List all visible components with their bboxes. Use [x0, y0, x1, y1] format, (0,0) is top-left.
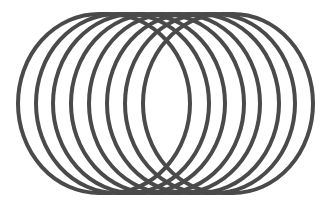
ring-2: [36, 14, 209, 193]
ring-3: [53, 14, 225, 193]
ring-8: [143, 14, 313, 193]
overlapping-rings-figure: [0, 0, 334, 205]
rings-group: [18, 14, 313, 193]
ring-4: [71, 14, 244, 193]
ring-5: [89, 14, 260, 193]
ring-6: [107, 14, 279, 193]
